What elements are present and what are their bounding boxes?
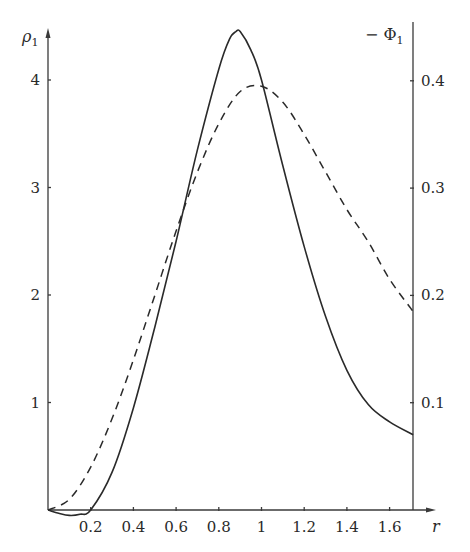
x-tick-label: 0.4 bbox=[121, 518, 145, 536]
x-ticks: 0.20.40.60.811.21.41.6 bbox=[79, 507, 402, 536]
x-tick-label: 1.2 bbox=[292, 518, 316, 536]
left-axis-title: ρ1 bbox=[21, 27, 38, 49]
y2-tick-label: 0.2 bbox=[421, 286, 445, 304]
x-tick-label: 0.6 bbox=[164, 518, 188, 536]
y2-tick-label: 0.1 bbox=[421, 394, 445, 412]
chart: 0.20.40.60.811.21.41.6 1234 0.10.20.30.4… bbox=[0, 0, 470, 552]
y2-tick-label: 0.3 bbox=[421, 179, 445, 197]
right-y-ticks: 0.10.20.30.4 bbox=[410, 72, 445, 412]
y-tick-label: 4 bbox=[30, 71, 40, 89]
right-axis-title: − Φ1 bbox=[365, 25, 404, 47]
x-tick-label: 1.4 bbox=[335, 518, 359, 536]
x-tick-label: 1.6 bbox=[378, 518, 402, 536]
x-axis-arrow-icon bbox=[426, 508, 436, 513]
x-tick-label: 0.8 bbox=[207, 518, 231, 536]
y-tick-label: 2 bbox=[30, 286, 40, 304]
x-axis-title: r bbox=[432, 517, 441, 536]
y2-tick-label: 0.4 bbox=[421, 72, 445, 90]
y-tick-label: 1 bbox=[30, 394, 40, 412]
x-tick-label: 1 bbox=[257, 518, 267, 536]
axes bbox=[46, 22, 437, 513]
left-axis-arrow-icon bbox=[46, 28, 51, 38]
x-tick-label: 0.2 bbox=[79, 518, 103, 536]
phi1-dashed-curve bbox=[48, 85, 413, 510]
y-tick-label: 3 bbox=[30, 179, 40, 197]
